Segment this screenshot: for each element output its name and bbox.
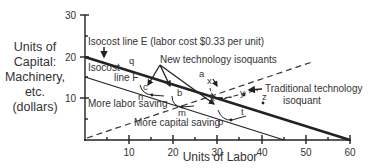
- traditional-isoquant: [210, 90, 258, 98]
- x-tick-60: 60: [344, 147, 356, 158]
- point-label-n: n: [138, 91, 143, 102]
- new-tech-label: New technology isoquants: [160, 54, 277, 65]
- isocost-e-label: Isocost line E (labor cost $0.33 per uni…: [88, 36, 264, 47]
- more-capital-saving-label: More capital saving: [134, 117, 220, 128]
- point-label-m: m: [178, 107, 186, 118]
- point-label-c: c: [143, 81, 148, 92]
- isoquant-diagram: Units of Capital: Machinery, etc. (dolla…: [0, 0, 368, 168]
- point-label-q: q: [129, 55, 134, 66]
- x-tick-50: 50: [300, 147, 312, 158]
- x-axis: [84, 135, 351, 144]
- traditional-label-line2: isoquant: [283, 95, 321, 106]
- traditional-label-line1: Traditional technology: [265, 83, 362, 94]
- point-label-z: z: [262, 91, 267, 102]
- y-tick-labels: 30 20 10: [65, 10, 77, 104]
- x-axis-label: Units of Labor: [150, 150, 290, 164]
- point-label-x: x: [207, 75, 212, 86]
- point-label-b: b: [177, 87, 182, 98]
- point-label-a: a: [199, 68, 205, 79]
- y-tick-20: 20: [65, 52, 77, 63]
- traditional-arrow: [249, 89, 262, 90]
- y-tick-10: 10: [65, 93, 77, 104]
- point-label-y: y: [240, 87, 245, 98]
- point-label-k: k: [210, 92, 215, 103]
- point-label-p: p: [218, 116, 223, 127]
- more-labor-saving-label: More labor saving: [88, 98, 167, 109]
- x-tick-10: 10: [123, 147, 135, 158]
- point-label-t: t: [241, 106, 244, 117]
- point-a-arrow: [213, 79, 217, 86]
- y-tick-30: 30: [65, 10, 77, 21]
- plot-area: 30 20 10 10 20 30 40 50 60: [0, 0, 368, 168]
- isocost-f-label-line2: line F: [114, 72, 138, 83]
